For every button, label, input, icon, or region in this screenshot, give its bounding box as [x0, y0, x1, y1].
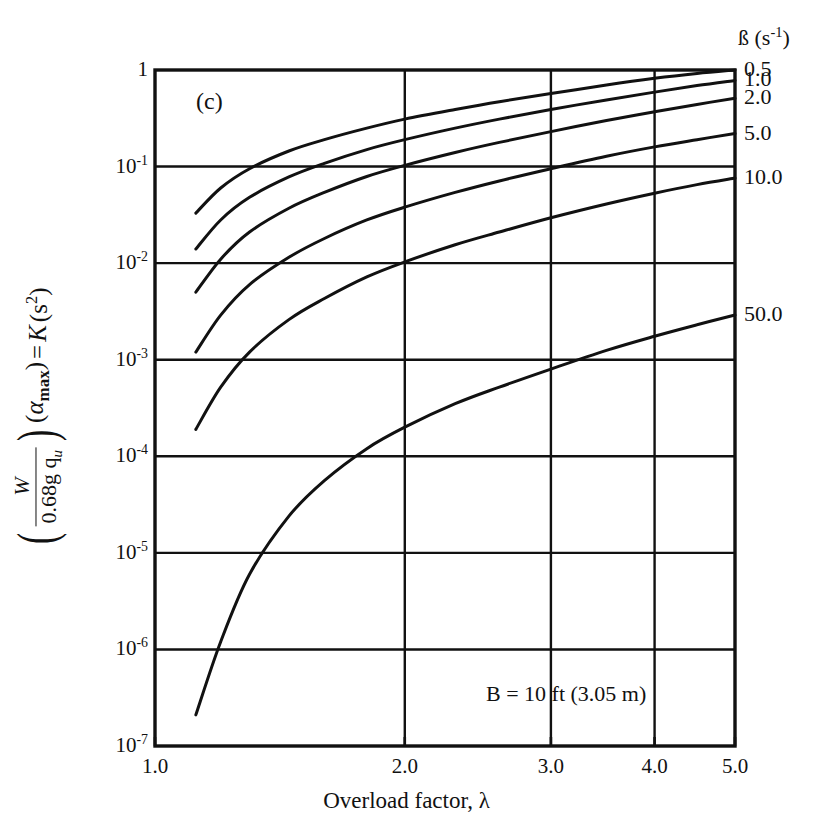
y-tick-exponent: -4 [136, 443, 148, 458]
x-axis-tick-labels: 1.02.03.04.05.0 [0, 754, 813, 784]
x-tick-label: 3.0 [538, 754, 564, 779]
y-tick-label: 10-2 [86, 250, 148, 276]
x-tick-label: 4.0 [641, 754, 667, 779]
y-tick-label: 10-6 [86, 636, 148, 662]
y-tick-label: 10-1 [86, 153, 148, 179]
y-tick-exponent: -2 [136, 250, 148, 265]
panel-tag: (c) [196, 88, 223, 115]
y-tick-exponent: -6 [136, 636, 148, 651]
x-tick-label: 1.0 [142, 754, 168, 779]
y-tick-label: 10-3 [86, 346, 148, 372]
y-tick-label: 10-5 [86, 539, 148, 565]
y-tick-label: 10-4 [86, 443, 148, 469]
y-axis-tick-labels: 110-110-210-310-410-510-610-7 [78, 0, 148, 834]
y-tick-exponent: -1 [136, 153, 148, 168]
x-tick-label: 2.0 [392, 754, 418, 779]
x-axis-label: Overload factor, λ [0, 788, 813, 814]
y-tick-exponent: -5 [136, 539, 148, 554]
legend-title: ß (s-1) [738, 24, 790, 51]
y-tick-exponent: -7 [136, 732, 148, 747]
y-tick-exponent: -3 [136, 346, 148, 361]
footing-width-annotation: B = 10 ft (3.05 m) [486, 681, 646, 707]
y-tick-label: 1 [86, 57, 148, 82]
figure-panel-c: ( W 0.68g qu ) (αmax) = K (s2) 110-110-2… [0, 0, 813, 834]
x-tick-label: 5.0 [722, 754, 748, 779]
